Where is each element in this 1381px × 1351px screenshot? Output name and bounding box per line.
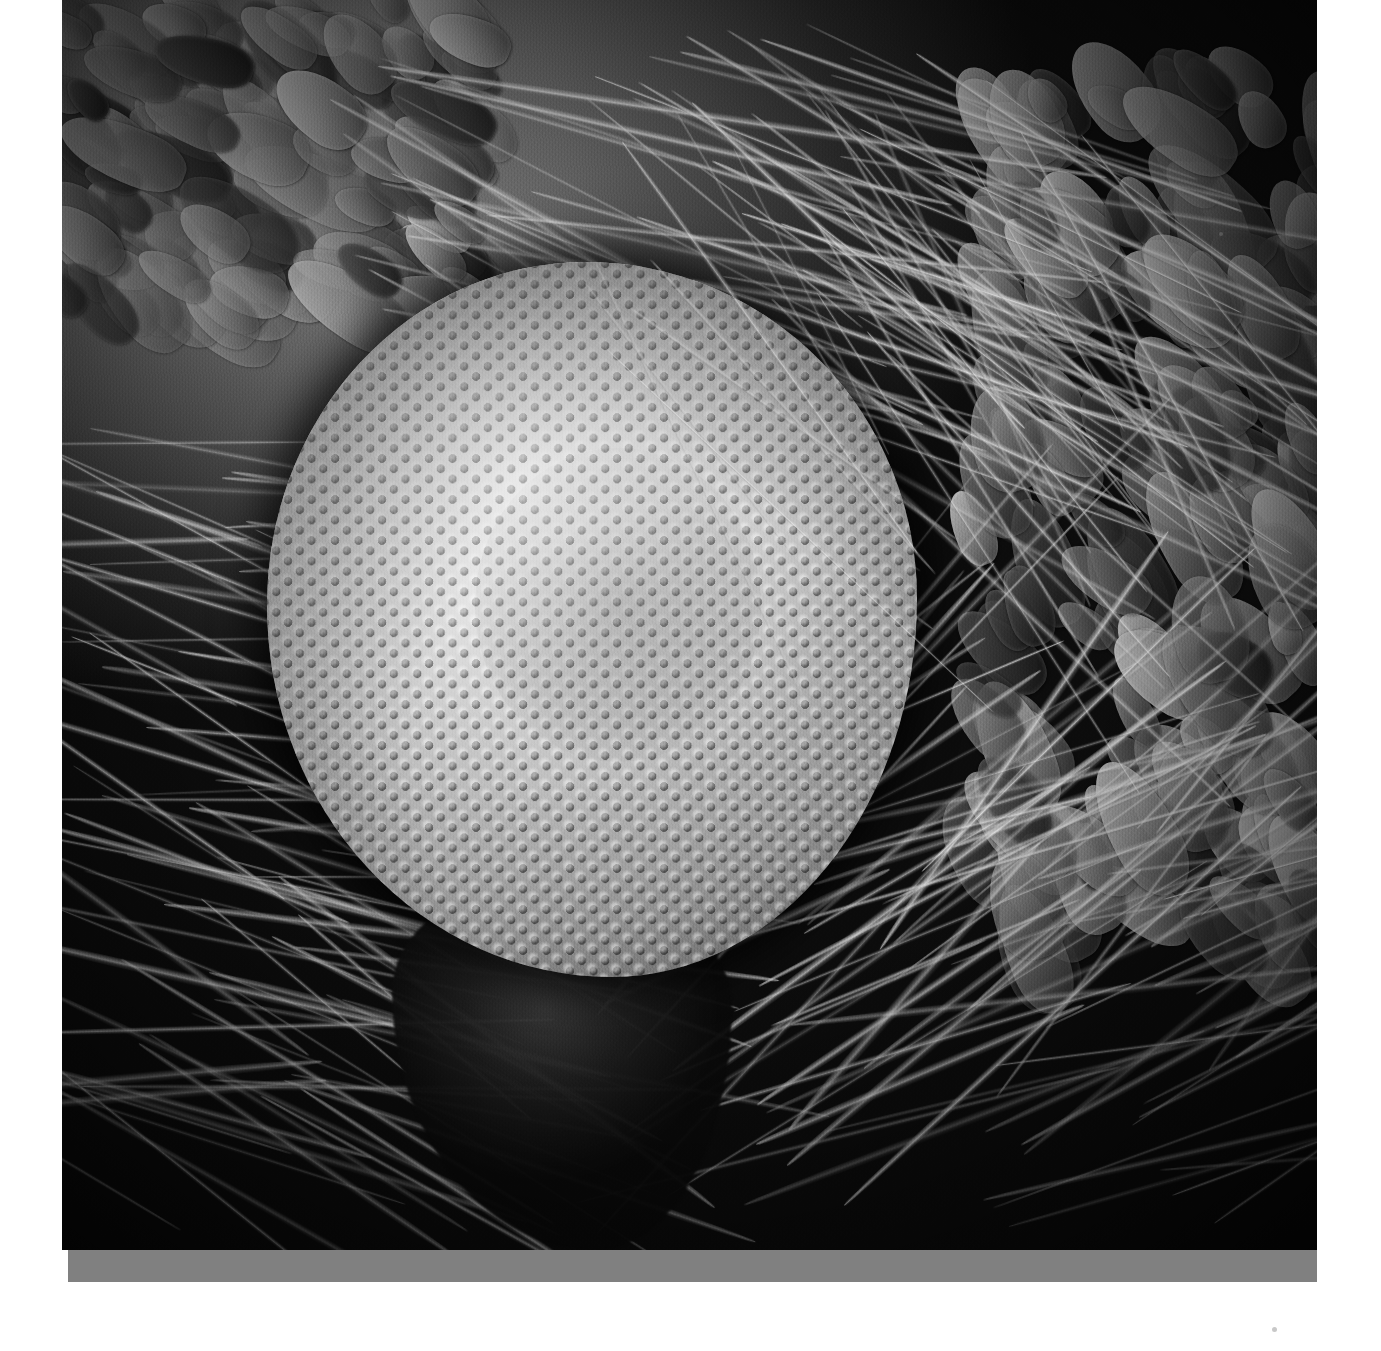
baseline-bar	[68, 1250, 1317, 1282]
micrograph-plate	[62, 0, 1317, 1250]
page-margin-left	[0, 0, 62, 1351]
page-canvas	[0, 0, 1381, 1351]
page-margin-bottom	[0, 1282, 1381, 1351]
page-margin-right	[1317, 0, 1381, 1351]
dust-speck	[1219, 232, 1223, 236]
plate-vignette	[62, 0, 1317, 1250]
dust-speck	[1272, 1327, 1277, 1332]
